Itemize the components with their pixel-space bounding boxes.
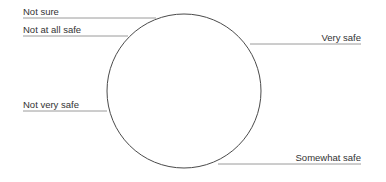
label-text: Not at all safe xyxy=(23,24,81,35)
label-text: Very safe xyxy=(321,32,361,43)
label-not-very-safe: Not very safe xyxy=(23,99,107,111)
label-somewhat-safe: Somewhat safe xyxy=(218,152,361,164)
label-text: Not sure xyxy=(23,6,59,17)
label-very-safe: Very safe xyxy=(250,32,361,44)
pie-circle xyxy=(107,14,261,168)
label-text: Somewhat safe xyxy=(296,152,361,163)
label-text: Not very safe xyxy=(23,99,79,110)
label-not-sure: Not sure xyxy=(23,6,156,18)
pie-chart: Not sure Not at all safe Very safe Not v… xyxy=(0,0,386,182)
label-not-at-all-safe: Not at all safe xyxy=(23,24,128,36)
